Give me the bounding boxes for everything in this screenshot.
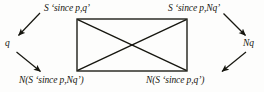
node-label-left: q — [5, 39, 10, 49]
node-label-top-left: S ‘since p,q’ — [44, 4, 90, 14]
arrow-Nq-to-bottomright — [222, 52, 246, 72]
node-label-bottom-left: N(S ‘since p,Nq’) — [19, 76, 84, 86]
node-label-bottom-right: N(S ‘since p,q’) — [146, 76, 204, 86]
node-label-right: Nq — [243, 39, 254, 49]
diagram-canvas: S ‘since p,q’ S ‘since p,Nq’ q Nq N(S ‘s… — [0, 0, 264, 92]
node-label-top-right: S ‘since p,Nq’ — [168, 4, 220, 14]
arrow-topleft-to-q — [19, 13, 41, 36]
arrow-topright-to-Nq — [224, 14, 246, 36]
arrow-q-to-bottomleft — [17, 52, 41, 72]
